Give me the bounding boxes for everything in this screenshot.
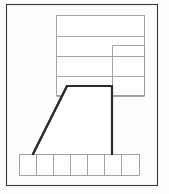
caption-text xyxy=(0,186,169,194)
technical-drawing xyxy=(0,0,169,194)
right-block-fill xyxy=(112,45,145,96)
bottom-cell-strip xyxy=(19,154,140,176)
right-vertical-block xyxy=(112,45,145,96)
drawing-canvas xyxy=(0,0,169,194)
